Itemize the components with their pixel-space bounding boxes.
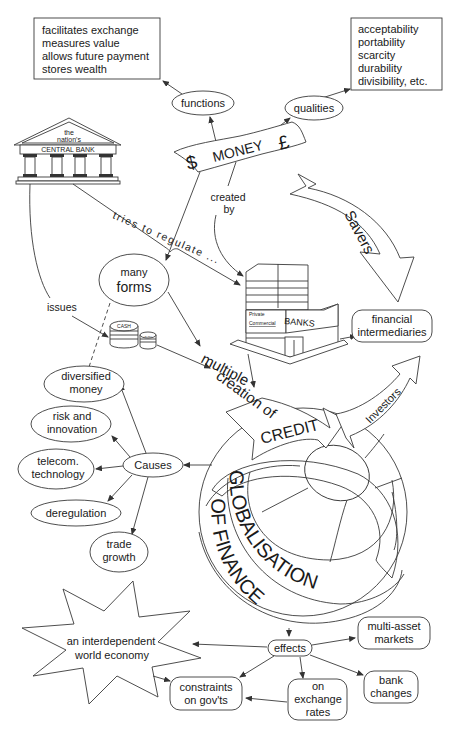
exchange-line1: on [312,680,324,692]
bank-changes-line1: bank [379,674,403,686]
multi-asset-line1: multi-asset [367,620,420,632]
intermediaries-label: intermediaries [357,326,427,338]
cause-line: money [69,383,103,395]
constraints-line1: constraints [179,681,233,693]
commercial-banks-building: Private Commercial BANKS [230,264,348,364]
multi-asset-node: multi-asset markets [358,617,430,649]
causes-label: Causes [134,459,172,471]
cash-stack-icon: CASH CASH [110,321,156,349]
arrow-exchange-constraints [246,698,287,702]
exchange-rates-node: on exchange rates [288,679,347,720]
cause-telecom-technology: telecom. technology [18,449,94,489]
cause-line: deregulation [46,507,107,519]
causes-node: Causes [123,453,183,477]
qualities-node: qualities [285,96,343,120]
cause-deregulation: deregulation [31,500,121,526]
forms-label: forms [117,279,152,295]
constraints-line2: on gov'ts [184,694,228,706]
arrow-banks-credit [248,354,254,387]
arrow-effects-bank [310,655,363,675]
effects-label: effects [274,642,307,654]
money-banner: $ MONEY £ [174,122,306,174]
many-forms-node: many forms [99,254,169,306]
arrow-effects-constraints [240,656,274,677]
financial-intermediaries-node: financial intermediaries [352,310,432,342]
qualities-box: acceptability portability scarcity durab… [351,18,442,90]
quality-item: acceptability [358,23,419,35]
arrow-causes-risk [112,436,130,457]
qualities-label: qualities [294,102,335,114]
function-item: measures value [42,37,120,49]
private-label: Private [249,311,265,317]
cash-small-label: CASH [145,335,152,338]
quality-item: scarcity [358,49,396,61]
cause-line: telecom. [37,455,79,467]
arrow-effects-exchange [300,657,303,678]
arrow-causes-telecom [96,466,123,469]
world-economy-line2: world economy [74,649,149,661]
by-label: by [223,203,235,215]
cause-line: technology [31,468,85,480]
cash-label: CASH [117,323,131,329]
cause-diversified-money: diversified money [44,366,124,402]
bank-changes-line2: changes [370,687,412,699]
globe-icon: GLOBALISATION OF FINANCE [199,408,407,623]
functions-label: functions [181,97,226,109]
world-economy-line1: an interdependent [67,635,156,647]
cause-trade-growth: trade growth [90,532,148,572]
arrow-causes-trade [132,477,148,534]
exchange-line3: rates [306,706,331,718]
line-bank-issues [30,184,50,298]
line-money-created [228,162,236,186]
commercial-label: Commercial [249,320,276,326]
functions-node: functions [172,91,234,115]
arrow-created-by-banks [214,215,243,276]
central-bank-building: the nation's CENTRAL BANK [14,118,121,184]
issues-label: issues [47,301,77,313]
arrow-world-constraints [153,676,170,681]
central-bank-the: the [64,129,74,136]
financial-label: financial [372,313,412,325]
functions-box: facilitates exchange measures value allo… [34,18,160,79]
quality-item: divisibility, etc. [358,75,427,87]
arrow-causes-diversified [120,385,146,453]
cause-line: risk and [53,410,92,422]
many-label: many [121,266,148,278]
bank-changes-node: bank changes [364,671,418,703]
quality-item: portability [358,36,406,48]
multi-asset-line2: markets [374,633,414,645]
exchange-line2: exchange [294,693,342,705]
function-item: facilitates exchange [42,24,139,36]
function-item: allows future payment [42,50,149,62]
arrow-causes-deregulation [108,475,132,501]
arrow-forms-multiple [168,292,200,346]
created-label: created [210,191,245,203]
constraints-node: constraints on gov'ts [170,677,242,710]
central-bank-nations: nation's [57,136,81,143]
arrow-functions-box [163,81,182,94]
function-item: stores wealth [42,63,107,75]
central-bank-label: CENTRAL BANK [41,146,95,153]
cause-line: innovation [47,423,97,435]
concept-map: facilitates exchange measures value allo… [0,0,452,734]
cause-risk-innovation: risk and innovation [31,406,111,442]
arrow-effects-multi [312,638,355,645]
cause-line: diversified [61,370,111,382]
cause-line: growth [102,551,135,563]
quality-item: durability [358,62,403,74]
effects-node: effects [268,640,312,656]
investors-arrow: Investors [336,356,420,448]
savers-arrow: Savers [290,174,414,302]
arrow-effects-world [193,644,267,647]
cause-line: trade [106,538,131,550]
